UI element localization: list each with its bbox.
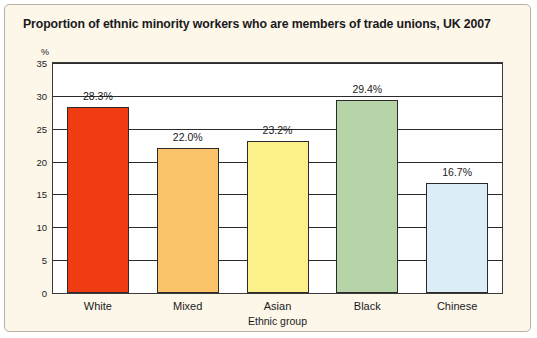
x-axis-tick-label: Black [354,300,381,312]
bar-value-label: 16.7% [442,166,472,178]
bar-white [67,107,129,293]
bar-black [336,100,398,293]
y-axis-unit-label: % [41,47,49,57]
chart-title: Proportion of ethnic minority workers wh… [23,17,518,31]
x-axis-tick-label: White [84,300,112,312]
y-axis-tick-label: 35 [36,58,47,69]
bar-chinese [426,183,488,293]
gridline [53,63,502,64]
x-axis-tick-label: Chinese [437,300,477,312]
y-axis-tick-label: 20 [36,156,47,167]
y-axis-tick-label: 0 [42,288,47,299]
y-axis-tick-label: 25 [36,123,47,134]
plot-area: 05101520253035 [52,62,503,294]
y-axis-tick-label: 30 [36,90,47,101]
bar-mixed [157,148,219,293]
x-axis-title: Ethnic group [52,315,503,327]
bar-asian [247,141,309,293]
bar-value-label: 28.3% [83,90,113,102]
chart-panel: Proportion of ethnic minority workers wh… [4,4,531,332]
bar-value-label: 29.4% [352,83,382,95]
x-axis-tick-label: Asian [264,300,292,312]
gridline [53,96,502,97]
x-axis-tick-label: Mixed [173,300,202,312]
bar-value-label: 22.0% [173,131,203,143]
y-axis-tick-label: 15 [36,189,47,200]
y-axis-tick-label: 10 [36,222,47,233]
bar-value-label: 23.2% [263,124,293,136]
y-axis-tick-label: 5 [42,255,47,266]
